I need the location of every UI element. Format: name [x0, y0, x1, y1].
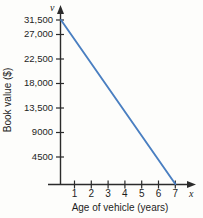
y-axis-tick-labels: 31,500 27,000 22,500 18,000 13,500 9000 …	[24, 14, 53, 162]
y-tick-label-22500: 22,500	[24, 53, 53, 64]
x-tick-label-5: 5	[139, 188, 145, 199]
y-tick-label-13500: 13,500	[24, 102, 53, 113]
x-tick-label-3: 3	[105, 188, 111, 199]
y-axis-variable-label: v	[50, 2, 55, 13]
x-axis-title: Age of vehicle (years)	[72, 202, 169, 213]
x-axis-tick-labels: 1 2 3 4 5 6 7	[72, 188, 179, 199]
y-axis-arrowhead	[57, 5, 64, 14]
y-tick-label-9000: 9000	[32, 126, 53, 137]
x-tick-label-1: 1	[72, 188, 78, 199]
x-tick-label-4: 4	[122, 188, 128, 199]
x-axis-variable-label: x	[188, 188, 194, 199]
book-value-line	[61, 20, 175, 184]
x-axis-arrowhead	[187, 181, 196, 188]
x-tick-label-2: 2	[89, 188, 95, 199]
x-tick-label-6: 6	[156, 188, 162, 199]
y-tick-label-4500: 4500	[32, 151, 53, 162]
chart-figure: 31,500 27,000 22,500 18,000 13,500 9000 …	[0, 0, 203, 218]
depreciation-line-chart: 31,500 27,000 22,500 18,000 13,500 9000 …	[0, 0, 203, 218]
x-tick-label-7: 7	[173, 188, 179, 199]
y-tick-label-18000: 18,000	[24, 77, 53, 88]
y-axis-title: Book value ($)	[2, 68, 13, 132]
y-tick-label-27000: 27,000	[24, 28, 53, 39]
y-tick-label-31500: 31,500	[24, 14, 53, 25]
